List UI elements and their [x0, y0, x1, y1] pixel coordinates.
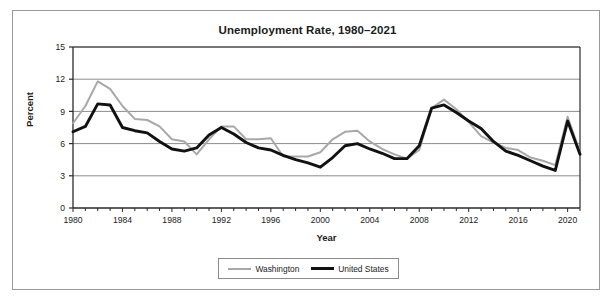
x-tick-label-2004: 2004 [360, 215, 379, 225]
y-tick-label-0: 0 [60, 203, 65, 213]
x-tick-label-2008: 2008 [410, 215, 429, 225]
legend-label-united-states: United States [338, 264, 388, 274]
y-tick-labels: 03691215 [55, 42, 65, 213]
x-tick-label-1996: 1996 [261, 215, 280, 225]
x-tick-label-1984: 1984 [113, 215, 132, 225]
legend-label-washington: Washington [255, 264, 299, 274]
x-tick-label-2016: 2016 [509, 215, 528, 225]
plot-area: 03691215 1980198419881992199620002004200… [0, 0, 615, 302]
x-tick-labels: 1980198419881992199620002004200820122016… [63, 215, 577, 225]
data-series [73, 81, 580, 170]
axis-ticks [69, 47, 580, 212]
legend-item-united-states: United States [311, 264, 388, 274]
y-tick-label-6: 6 [60, 139, 65, 149]
x-tick-label-2020: 2020 [558, 215, 577, 225]
y-tick-label-15: 15 [55, 42, 65, 52]
x-tick-label-1992: 1992 [212, 215, 231, 225]
x-tick-label-2012: 2012 [459, 215, 478, 225]
chart-legend: Washington United States [218, 258, 399, 279]
y-tick-label-3: 3 [60, 171, 65, 181]
series-line-united-states [73, 104, 580, 171]
y-tick-label-9: 9 [60, 107, 65, 117]
chart-figure: Unemployment Rate, 1980–2021 Percent Yea… [0, 0, 615, 302]
x-tick-label-1980: 1980 [63, 215, 82, 225]
legend-swatch-washington [228, 268, 251, 270]
plot-frame [73, 47, 580, 208]
x-tick-label-1988: 1988 [162, 215, 181, 225]
legend-swatch-united-states [311, 267, 334, 270]
x-tick-label-2000: 2000 [311, 215, 330, 225]
y-tick-label-12: 12 [55, 74, 65, 84]
gridlines [73, 47, 580, 176]
series-line-washington [73, 81, 580, 165]
legend-item-washington: Washington [228, 264, 299, 274]
